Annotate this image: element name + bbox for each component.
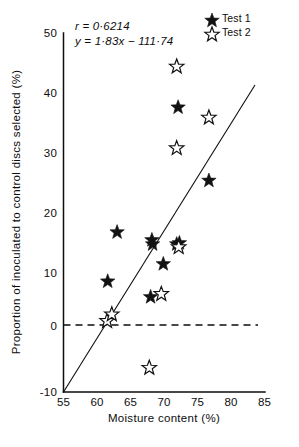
data-point-marker <box>142 360 156 374</box>
data-point-marker <box>110 225 124 239</box>
axes-lines <box>64 33 266 392</box>
y-tick-label-0: 0 <box>50 320 57 332</box>
series-test-1-points <box>101 100 217 303</box>
x-tick-labels: 55 60 65 70 75 80 85 <box>57 396 271 408</box>
legend: Test 1 Test 2 <box>205 12 251 41</box>
data-point-marker <box>170 141 184 155</box>
data-point-marker <box>202 110 216 124</box>
y-tick-label-30: 30 <box>44 147 57 159</box>
legend-entry-test-1: Test 1 <box>205 12 251 27</box>
x-tick-label-70: 70 <box>157 396 170 408</box>
data-point-marker <box>101 274 115 288</box>
x-tick-label-75: 75 <box>191 396 204 408</box>
y-tick-label-40: 40 <box>44 87 57 99</box>
legend-entry-test-2: Test 2 <box>205 26 251 41</box>
filled-star-icon <box>205 13 219 27</box>
legend-label-test-1: Test 1 <box>222 12 251 24</box>
y-tick-labels: 50 40 30 20 10 0 -10 <box>40 27 57 398</box>
data-point-marker <box>154 286 168 300</box>
data-point-marker <box>170 59 184 73</box>
open-star-icon <box>205 27 219 41</box>
x-tick-label-65: 65 <box>124 396 137 408</box>
y-tick-label-10: 10 <box>44 267 57 279</box>
regression-line <box>64 85 256 392</box>
y-axis-title: Proportion of inoculated to control disc… <box>10 70 22 355</box>
y-tick-label-50: 50 <box>44 27 57 39</box>
plot-canvas: r = 0·6214 y = 1·83x − 111·74 Test 1 Tes… <box>0 0 299 447</box>
x-tick-label-60: 60 <box>90 396 103 408</box>
x-tick-label-85: 85 <box>258 396 271 408</box>
scatter-plot-figure: r = 0·6214 y = 1·83x − 111·74 Test 1 Tes… <box>0 0 299 447</box>
x-axis-title: Moisture content (%) <box>108 412 220 424</box>
series-test-2-points <box>100 59 216 374</box>
data-point-marker <box>156 256 170 270</box>
legend-label-test-2: Test 2 <box>222 26 251 38</box>
data-point-marker <box>202 173 216 187</box>
y-tick-label-minus-10: -10 <box>40 386 57 398</box>
correlation-annotation: r = 0·6214 <box>75 20 130 32</box>
equation-annotation: y = 1·83x − 111·74 <box>74 35 173 47</box>
x-tick-label-80: 80 <box>224 396 237 408</box>
annotation-group: r = 0·6214 y = 1·83x − 111·74 <box>74 20 173 47</box>
data-point-marker <box>171 100 185 114</box>
x-tick-label-55: 55 <box>57 396 70 408</box>
y-tick-label-20: 20 <box>44 207 57 219</box>
